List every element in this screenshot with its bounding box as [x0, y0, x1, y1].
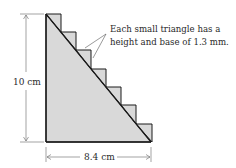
annotation-line-1: Each small triangle has a	[110, 24, 220, 34]
triangle-diagram: 10 cm 8.4 cm Each small triangle has a h…	[0, 0, 236, 168]
height-label: 10 cm	[13, 77, 41, 87]
base-label: 8.4 cm	[84, 152, 115, 162]
annotation-line-2: height and base of 1.3 mm.	[110, 37, 229, 47]
